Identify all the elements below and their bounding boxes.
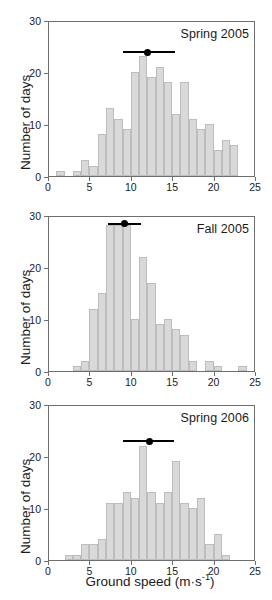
- panel-title-2: Fall 2005: [197, 222, 249, 236]
- histogram-bar: [106, 225, 114, 371]
- histogram-bar: [172, 114, 180, 176]
- x-tick-mark: [89, 177, 90, 181]
- plot-frame: [48, 405, 255, 561]
- histogram-bar: [81, 361, 89, 371]
- x-tick-label: 25: [243, 376, 267, 388]
- histogram-bar: [238, 366, 246, 371]
- x-tick-mark: [214, 372, 215, 376]
- x-tick-mark: [255, 177, 256, 181]
- mean-marker-dot: [146, 438, 153, 445]
- histogram-bar: [180, 82, 188, 176]
- histogram-bar: [106, 108, 114, 176]
- y-tick-label: 0: [16, 171, 41, 183]
- x-axis-label-exponent: -1: [202, 572, 210, 582]
- y-tick-label: 0: [16, 366, 41, 378]
- x-axis-label-paren: ): [210, 574, 215, 589]
- x-tick-label: 25: [243, 181, 267, 193]
- histogram-bar: [81, 160, 89, 176]
- x-tick-label: 5: [77, 181, 101, 193]
- histogram-bar: [222, 140, 230, 176]
- histogram-bar: [73, 555, 81, 560]
- histogram-bar: [189, 508, 197, 560]
- histogram-bar: [73, 171, 81, 176]
- x-tick-label: 0: [36, 181, 60, 193]
- y-tick-mark: [44, 561, 48, 562]
- histogram-bar: [189, 361, 197, 371]
- x-tick-label: 20: [202, 181, 226, 193]
- x-tick-mark: [48, 177, 49, 181]
- x-tick-mark: [255, 561, 256, 565]
- histogram-panel-1: Spring 200501020300510152025: [0, 0, 272, 600]
- mean-range-bar: [123, 51, 175, 53]
- histogram-bar: [147, 77, 155, 176]
- y-tick-mark: [44, 320, 48, 321]
- histogram-bar: [56, 171, 64, 176]
- x-tick-mark: [214, 561, 215, 565]
- x-tick-label: 10: [119, 376, 143, 388]
- histogram-bar: [156, 67, 164, 176]
- histogram-bar: [197, 129, 205, 176]
- x-tick-mark: [255, 372, 256, 376]
- histogram-bar: [156, 503, 164, 560]
- bars-layer: [49, 22, 254, 176]
- y-axis-label-panel-3: Number of days: [18, 459, 33, 554]
- bars-layer: [49, 406, 254, 560]
- histogram-bar: [214, 366, 222, 371]
- y-axis-label-panel-1: Number of days: [18, 75, 33, 170]
- y-tick-mark: [44, 372, 48, 373]
- y-tick-mark: [44, 73, 48, 74]
- histogram-bar: [205, 124, 213, 176]
- histogram-bar: [114, 119, 122, 176]
- x-tick-mark: [172, 561, 173, 565]
- histogram-panel-2: Fall 200501020300510152025: [0, 0, 272, 600]
- histogram-bar: [139, 257, 147, 371]
- histogram-bar: [106, 503, 114, 560]
- histogram-bar: [131, 72, 139, 176]
- x-tick-mark: [172, 372, 173, 376]
- histogram-bar: [131, 319, 139, 371]
- histogram-bar: [172, 329, 180, 371]
- bars-layer: [49, 217, 254, 371]
- histogram-bar: [89, 166, 97, 176]
- panel-title-3: Spring 2006: [180, 411, 249, 425]
- x-tick-mark: [48, 561, 49, 565]
- histogram-bar: [139, 446, 147, 560]
- x-tick-mark: [172, 177, 173, 181]
- histogram-bar: [164, 82, 172, 176]
- panel-title-1: Spring 2005: [180, 27, 249, 41]
- histogram-bar: [139, 56, 147, 176]
- histogram-bar: [205, 361, 213, 371]
- histogram-bar: [123, 225, 131, 371]
- histogram-bar: [156, 324, 164, 371]
- y-tick-mark: [44, 177, 48, 178]
- histogram-bar: [180, 335, 188, 371]
- histogram-panel-3: Spring 200601020300510152025: [0, 0, 272, 600]
- histogram-bar: [131, 498, 139, 560]
- histogram-bar: [81, 544, 89, 560]
- histogram-bar: [123, 129, 131, 176]
- histogram-bar: [189, 119, 197, 176]
- x-tick-mark: [89, 372, 90, 376]
- mean-marker-dot: [121, 220, 128, 227]
- plot-frame: [48, 216, 255, 372]
- y-tick-label: 30: [16, 399, 41, 411]
- x-tick-label: 0: [36, 376, 60, 388]
- y-tick-label: 30: [16, 15, 41, 27]
- histogram-bar: [98, 293, 106, 371]
- histogram-bar: [214, 150, 222, 176]
- histogram-bar: [205, 544, 213, 560]
- y-tick-mark: [44, 405, 48, 406]
- y-tick-mark: [44, 457, 48, 458]
- x-tick-label: 15: [160, 376, 184, 388]
- y-tick-mark: [44, 125, 48, 126]
- histogram-bar: [89, 309, 97, 371]
- x-axis-label: Ground speed (m·s-1): [14, 572, 272, 589]
- histogram-bar: [114, 503, 122, 560]
- histogram-bar: [230, 145, 238, 176]
- histogram-bar: [65, 555, 73, 560]
- histogram-bar: [197, 498, 205, 560]
- histogram-bar: [214, 534, 222, 560]
- histogram-bar: [114, 225, 122, 371]
- histogram-bar: [73, 366, 81, 371]
- y-tick-mark: [44, 268, 48, 269]
